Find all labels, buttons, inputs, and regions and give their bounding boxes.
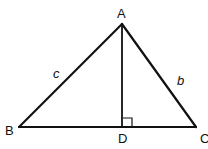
side-ab [19, 24, 122, 127]
right-angle-marker-icon [123, 118, 132, 127]
vertex-label-b: B [5, 123, 14, 138]
side-ac [122, 24, 196, 127]
vertex-label-d: D [118, 131, 127, 146]
side-label-b: b [177, 73, 184, 88]
vertex-label-a: A [117, 6, 126, 21]
side-label-c: c [53, 66, 60, 81]
vertex-label-c: C [200, 131, 208, 146]
triangle-diagram: A B C D c b [0, 0, 208, 149]
